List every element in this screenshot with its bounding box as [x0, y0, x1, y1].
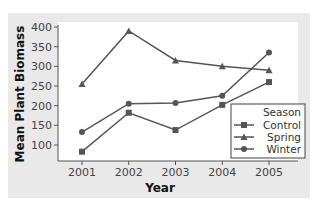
x-tick-label: 2005 [255, 166, 283, 179]
y-tick-label: 400 [31, 21, 52, 34]
circle-marker [126, 101, 132, 107]
y-tick-label: 100 [31, 139, 52, 152]
y-axis-title: Mean Plant Biomass [13, 26, 27, 163]
square-marker [79, 149, 85, 155]
y-tick-label: 150 [31, 119, 52, 132]
square-marker [266, 79, 272, 85]
y-tick-label: 250 [31, 80, 52, 93]
square-marker [173, 127, 179, 133]
legend-entry: Spring [267, 131, 301, 143]
legend-entry: Control [263, 119, 301, 131]
x-tick-label: 2003 [162, 166, 190, 179]
y-tick-label: 200 [31, 100, 52, 113]
circle-marker [173, 100, 179, 106]
legend-entry: Winter [266, 143, 301, 155]
square-marker [219, 102, 225, 108]
x-tick-label: 2004 [208, 166, 236, 179]
line-chart: 1001502002503003504002001200220032004200… [0, 0, 318, 208]
circle-marker [79, 129, 85, 135]
x-axis-title: Year [144, 181, 175, 195]
legend-square-icon [241, 122, 247, 128]
x-tick-label: 2002 [115, 166, 143, 179]
legend-circle-icon [241, 146, 247, 152]
circle-marker [266, 50, 272, 56]
x-tick-label: 2001 [68, 166, 96, 179]
legend-title: Season [263, 106, 301, 118]
circle-marker [219, 93, 225, 99]
y-tick-label: 350 [31, 41, 52, 54]
y-tick-label: 300 [31, 60, 52, 73]
square-marker [126, 110, 132, 116]
